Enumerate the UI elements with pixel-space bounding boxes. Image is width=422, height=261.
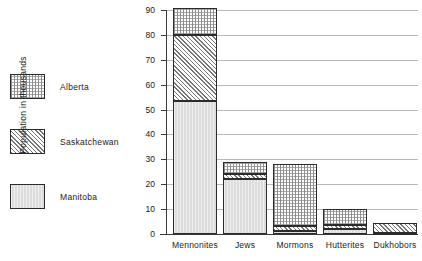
- x-tick-label-mennonites: Mennonites: [172, 240, 218, 250]
- y-tick-label: 80: [133, 30, 155, 40]
- bar-segment-manitoba: [323, 229, 367, 234]
- x-tick-label-jews: Jews: [235, 240, 255, 250]
- bar-segment-alberta: [323, 209, 367, 225]
- bar-segment-saskatchewan: [323, 225, 367, 229]
- bar-segment-saskatchewan: [273, 226, 317, 231]
- y-tick-label: 90: [133, 5, 155, 15]
- y-tick-label: 0: [133, 229, 155, 239]
- bar-segment-saskatchewan: [223, 174, 267, 179]
- y-tick-label: 70: [133, 55, 155, 65]
- bar-segment-alberta: [173, 8, 217, 35]
- y-axis-title: Population in thousands: [18, 30, 28, 180]
- y-tick-label: 20: [133, 179, 155, 189]
- x-tick-label-hutterites: Hutterites: [326, 240, 364, 250]
- y-tick-label: 60: [133, 80, 155, 90]
- y-tick-label: 50: [133, 105, 155, 115]
- bar-mormons: [273, 164, 317, 234]
- bar-segment-saskatchewan: [373, 223, 417, 233]
- bar-segment-alberta: [273, 164, 317, 226]
- y-tick-label: 30: [133, 154, 155, 164]
- bar-segment-manitoba: [223, 179, 267, 234]
- bar-segment-saskatchewan: [173, 35, 217, 101]
- x-tick-label-dukhobors: Dukhobors: [374, 240, 417, 250]
- bar-dukhobors: [373, 223, 417, 234]
- bar-segment-manitoba: [173, 101, 217, 234]
- bar-hutterites: [323, 209, 367, 234]
- x-tick-label-mormons: Mormons: [277, 240, 314, 250]
- bar-chart: Population in thousands 0102030405060708…: [0, 0, 422, 261]
- bar-mennonites: [173, 8, 217, 234]
- bar-segment-manitoba: [273, 231, 317, 233]
- y-tick-label: 10: [133, 204, 155, 214]
- bar-segment-alberta: [223, 162, 267, 174]
- y-tick-label: 40: [133, 129, 155, 139]
- bar-jews: [223, 162, 267, 234]
- bar-segment-manitoba: [373, 233, 417, 235]
- y-axis-line: [166, 10, 167, 235]
